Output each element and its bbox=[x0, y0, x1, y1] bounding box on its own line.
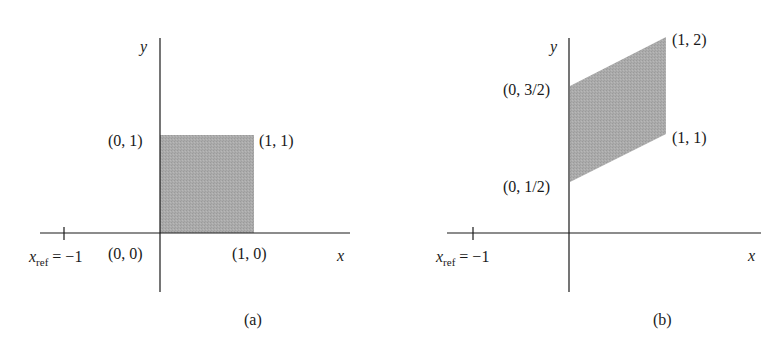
panel-b: y x (1, 2) (0, 3/2) (1, 1) (0, 1/2) xref… bbox=[435, 31, 761, 329]
y-axis-label: y bbox=[548, 38, 558, 56]
label-origin: (0, 0) bbox=[108, 245, 143, 263]
label-top-right: (1, 1) bbox=[259, 132, 294, 150]
ref-label: xref = −1 bbox=[28, 248, 82, 268]
label-top-right: (1, 2) bbox=[672, 31, 707, 49]
panel-a: y x (0, 1) (1, 1) (0, 0) (1, 0) xref = −… bbox=[28, 38, 350, 329]
label-top-left: (0, 3/2) bbox=[503, 81, 550, 99]
unit-square bbox=[160, 135, 254, 233]
caption-a: (a) bbox=[244, 311, 262, 329]
label-top-left: (0, 1) bbox=[108, 132, 143, 150]
x-axis-label: x bbox=[747, 247, 755, 264]
parallelogram bbox=[570, 37, 666, 182]
caption-b: (b) bbox=[653, 311, 672, 329]
label-bottom-right: (1, 1) bbox=[672, 129, 707, 147]
label-x1: (1, 0) bbox=[232, 245, 267, 263]
figure-canvas: y x (0, 1) (1, 1) (0, 0) (1, 0) xref = −… bbox=[0, 0, 783, 349]
x-axis-label: x bbox=[336, 247, 344, 264]
y-axis-label: y bbox=[138, 38, 148, 56]
label-bottom-left: (0, 1/2) bbox=[503, 178, 550, 196]
ref-label: xref = −1 bbox=[435, 248, 489, 268]
